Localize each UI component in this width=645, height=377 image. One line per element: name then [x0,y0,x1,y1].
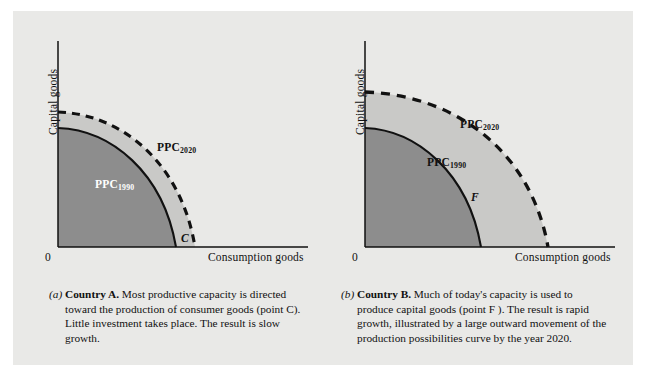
curve-label-ppc-1990-a-name: PPC [95,178,118,190]
origin-label-b: 0 [352,251,358,263]
caption-line-b-5: possibilities curve by the year 2020. [409,332,572,344]
y-axis-label-a: Capital goods [47,69,59,135]
chart-panel-country-b: Capital goods 0 Consumption goods PPC199… [323,11,633,365]
figure-panel: Capital goods 0 Consumption goods PPC199… [13,11,633,365]
curve-label-ppc-2020-b-name: PPC [460,118,483,130]
caption-country-name-a: Country A. [65,288,119,300]
caption-line-a-1: Most productive capacity is [122,288,247,300]
curve-label-ppc-1990-b: PPC1990 [427,156,466,168]
caption-country-b: (b) Country B. Much of today's capacity … [341,287,609,345]
curve-label-ppc-2020-a: PPC2020 [157,141,196,153]
x-axis-label-a: Consumption goods [208,251,304,263]
caption-country-a: (a) Country A. Most productive capacity … [49,287,317,345]
x-axis-label-b: Consumption goods [515,251,611,263]
curve-label-ppc-1990-a: PPC1990 [95,178,134,190]
curve-label-ppc-2020-b-year: 2020 [483,123,499,132]
curve-label-ppc-1990-b-year: 1990 [450,161,466,170]
curve-label-ppc-1990-b-name: PPC [427,156,450,168]
curve-label-ppc-1990-a-year: 1990 [118,183,134,192]
caption-letter-b: (b) [341,288,354,300]
origin-label-a: 0 [45,251,51,263]
caption-country-name-b: Country B. [357,288,411,300]
caption-line-b-1: Much of today's capacity is [414,288,538,300]
curve-label-ppc-2020-a-name: PPC [157,141,180,153]
curve-label-ppc-2020-b: PPC2020 [460,118,499,130]
point-label-f: F [471,191,479,203]
y-axis-label-b: Capital goods [354,69,366,135]
point-label-c: C [181,232,189,244]
caption-letter-a: (a) [49,288,62,300]
ppc-chart-country-b [323,11,633,283]
curve-label-ppc-2020-a-year: 2020 [180,146,196,155]
plot-area-country-b [323,11,633,283]
chart-panel-country-a: Capital goods 0 Consumption goods PPC199… [13,11,323,365]
